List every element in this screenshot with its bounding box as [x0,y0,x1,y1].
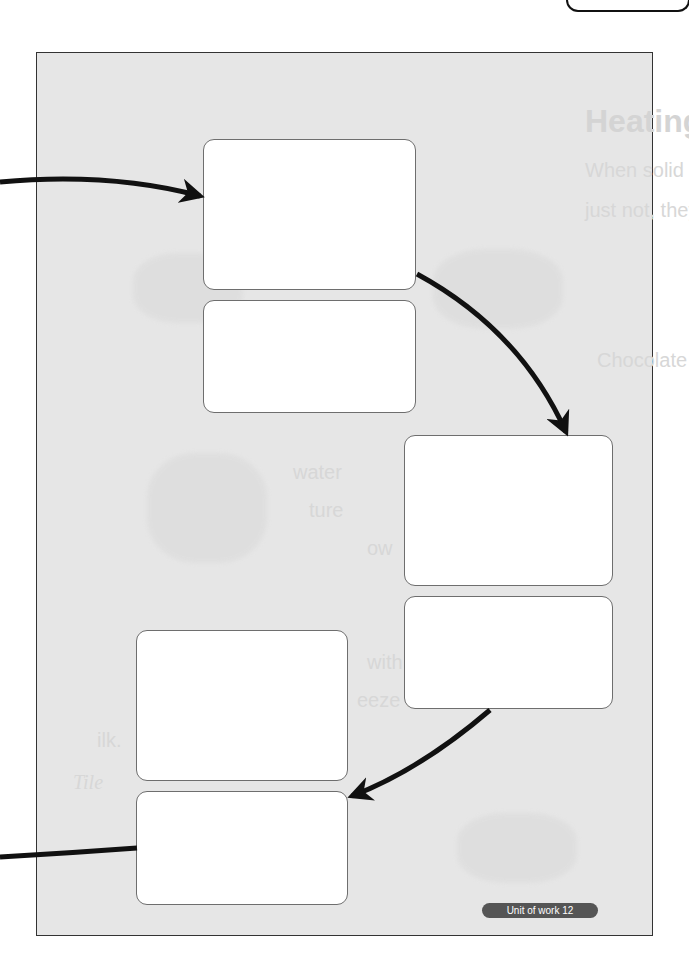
flow-box-2[interactable] [203,300,416,413]
ghost-line: Chocolate melts on a [597,349,689,372]
ghost-line: When solid things ate [585,159,689,182]
ghost-line: ow [367,537,393,560]
flow-box-6[interactable] [136,791,348,905]
ghost-image [457,813,577,883]
ghost-line: water [293,461,342,484]
ghost-line: with [367,651,403,674]
page-tab-outline [566,0,689,12]
flow-box-3[interactable] [404,435,613,586]
ghost-image [433,249,563,329]
ghost-line: ture [309,499,343,522]
ghost-line: ilk. [97,729,121,752]
flow-box-4[interactable] [404,596,613,709]
ghost-image [147,453,267,563]
ghost-caption: Tile [73,771,103,794]
unit-badge: Unit of work 12 [482,903,598,918]
ghost-title: Heating and cooling [585,103,689,140]
ghost-line: just not, they as m. [585,199,689,222]
flow-box-1[interactable] [203,139,416,290]
flow-box-5[interactable] [136,630,348,781]
